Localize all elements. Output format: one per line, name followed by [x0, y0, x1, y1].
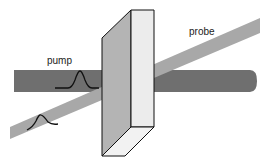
sample-front-face	[131, 10, 154, 127]
pump-probe-diagram	[0, 0, 271, 165]
probe-label: probe	[189, 26, 215, 37]
pump-beam-right	[150, 70, 257, 92]
pump-label: pump	[47, 55, 72, 66]
